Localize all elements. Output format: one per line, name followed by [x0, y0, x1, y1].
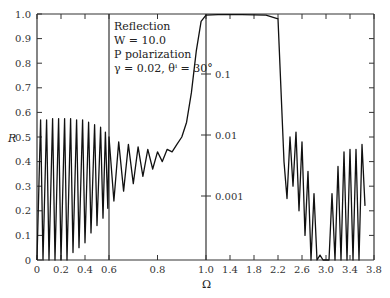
- y-axis-label: R: [7, 132, 16, 145]
- x-tick-label: 1.8: [246, 264, 262, 275]
- x-tick-label: 0: [34, 264, 40, 275]
- x-tick-label: 3.4: [342, 264, 358, 275]
- y-tick-label: 0.3: [15, 181, 31, 192]
- x-tick-label: 2.6: [294, 264, 310, 275]
- y-tick-label: 0.8: [15, 58, 31, 69]
- log-tick-label: 0.001: [215, 191, 244, 202]
- y-tick-label: 0: [25, 255, 31, 266]
- y-tick-label: 0.7: [15, 82, 31, 93]
- y-tick-label: 0.2: [15, 205, 31, 216]
- x-tick-label: 0.2: [53, 264, 69, 275]
- y-tick-label: 0.9: [15, 33, 31, 44]
- log-tick-label: 0.01: [215, 130, 237, 141]
- x-tick-label: 0.4: [77, 264, 93, 275]
- y-tick-label: 0.5: [15, 132, 31, 143]
- x-tick-label: 3.0: [318, 264, 334, 275]
- y-tick-label: 0.6: [15, 107, 31, 118]
- y-tick-label: 1.0: [15, 9, 31, 20]
- y-tick-label: 0.1: [15, 230, 31, 241]
- annotation-line-3: P polarization: [114, 48, 191, 61]
- y-tick-label: 0.4: [15, 156, 31, 167]
- x-tick-label: 2.2: [270, 264, 286, 275]
- inner-log-axis: 0.10.010.001: [201, 69, 244, 202]
- x-axis-label: Ω: [202, 278, 211, 291]
- x-tick-label: 1.0: [198, 264, 214, 275]
- x-tick-label: 0.6: [101, 264, 117, 275]
- reflectance-chart: 00.10.20.30.40.50.60.70.80.91.0 00.20.40…: [0, 0, 390, 298]
- x-tick-label: 3.8: [366, 264, 382, 275]
- annotation-line-4: γ = 0.02, θⁱ = 30°: [114, 62, 213, 75]
- annotation-line-1: Reflection: [114, 20, 170, 33]
- x-tick-label: 0.8: [150, 264, 166, 275]
- x-tick-label: 1.4: [222, 264, 238, 275]
- log-tick-label: 0.1: [215, 69, 231, 80]
- reflectance-curve: [37, 15, 365, 260]
- annotation-box: Reflection W = 10.0 P polarization γ = 0…: [114, 20, 213, 75]
- annotation-line-2: W = 10.0: [114, 34, 166, 47]
